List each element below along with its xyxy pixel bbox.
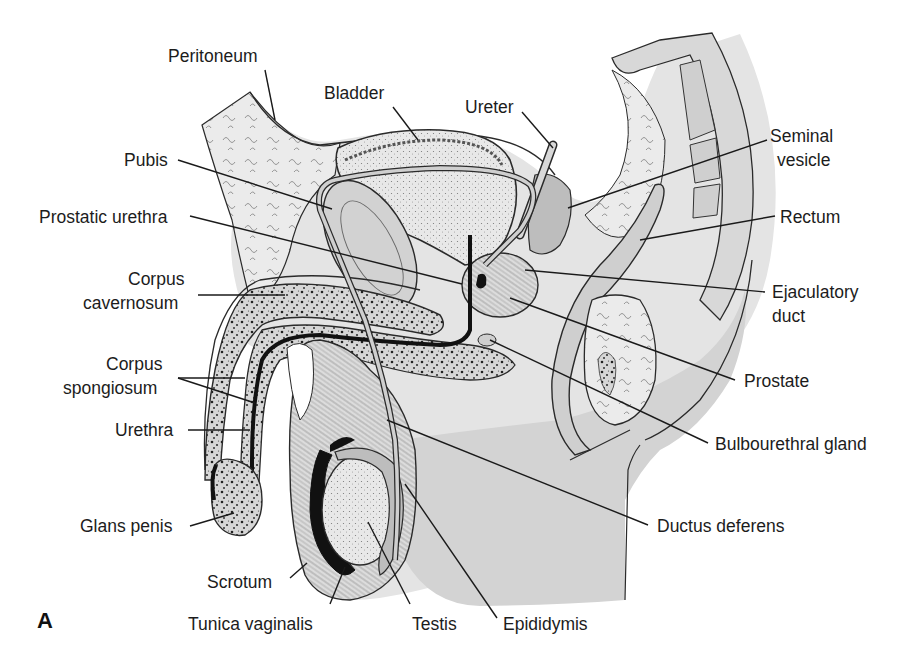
label-seminal-vesicle-line2: vesicle [777,148,831,172]
label-glans-penis: Glans penis [80,514,172,538]
label-scrotum: Scrotum [207,570,272,594]
label-pubis: Pubis [124,148,168,172]
label-rectum: Rectum [780,205,840,229]
label-bladder: Bladder [324,81,384,105]
label-bulbourethral-gland: Bulbourethral gland [715,432,867,456]
label-peritoneum: Peritoneum [168,44,258,68]
leader-line-ureter [522,112,553,148]
label-seminal-vesicle-line1: Seminal [770,124,833,148]
label-corpus-cavernosum-line1: Corpus [128,267,184,291]
label-prostatic-urethra: Prostatic urethra [39,205,167,229]
label-ejaculatory-duct-line2: duct [772,304,805,328]
prostate [462,253,538,317]
label-ejaculatory-duct-line1: Ejaculatory [772,280,859,304]
label-corpus-spongiosum-line2: spongiosum [63,376,157,400]
panel-letter: A [37,608,53,634]
bulbourethral-gland [478,334,496,346]
label-epididymis: Epididymis [503,612,588,636]
label-prostate: Prostate [744,369,809,393]
label-corpus-cavernosum-line2: cavernosum [83,291,178,315]
label-ductus-deferens: Ductus deferens [657,514,784,538]
label-tunica-vaginalis: Tunica vaginalis [188,612,313,636]
vertebra-3 [693,184,720,218]
label-corpus-spongiosum-line1: Corpus [106,352,162,376]
anatomy-figure: Peritoneum Bladder Ureter Seminal vesicl… [0,0,923,667]
pelvis-illustration [0,0,923,667]
label-testis: Testis [412,612,457,636]
label-ureter: Ureter [465,95,514,119]
label-urethra: Urethra [115,418,173,442]
